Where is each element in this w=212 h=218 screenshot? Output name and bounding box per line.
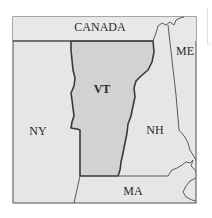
label-massachusetts: MA — [123, 184, 143, 198]
region-map: CANADA ME VT NY NH MA — [0, 0, 212, 218]
edge-artifact — [207, 8, 211, 45]
label-new-york: NY — [29, 124, 47, 138]
label-vermont: VT — [94, 82, 111, 96]
label-canada: CANADA — [74, 20, 126, 34]
label-new-hampshire: NH — [146, 123, 164, 137]
map-figure: CANADA ME VT NY NH MA — [0, 0, 212, 218]
label-maine: ME — [176, 44, 194, 58]
